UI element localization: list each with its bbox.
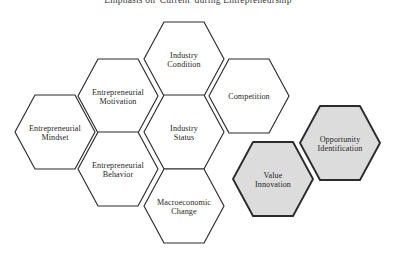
hexagon-label-line1-entrepreneurial-mindset: Entrepreneurial (29, 124, 81, 133)
hexagon-entrepreneurial-behavior[interactable]: EntrepreneurialBehavior (78, 132, 158, 206)
hexagon-label-line2-entrepreneurial-mindset: Mindset (41, 133, 69, 142)
hexagon-opportunity-identification[interactable]: OpportunityIdentification (300, 106, 380, 180)
hexagon-label-line1-value-innovation: Value (264, 171, 283, 180)
hexagon-label-line2-entrepreneurial-motivation: Motivation (100, 97, 137, 106)
hexagon-label-line1-entrepreneurial-motivation: Entrepreneurial (92, 88, 144, 97)
figure-canvas: Emphasis on 'Current' during Entrepreneu… (0, 0, 396, 269)
hexagon-value-innovation[interactable]: ValueInnovation (233, 142, 313, 216)
hexagon-industry-condition[interactable]: IndustryCondition (144, 22, 224, 96)
hexagon-label-line1-competition: Competition (228, 92, 270, 101)
hexagon-label-line1-opportunity-identification: Opportunity (320, 135, 362, 144)
hexagon-label-line2-value-innovation: Innovation (255, 180, 291, 189)
hexagon-label-line2-entrepreneurial-behavior: Behavior (103, 170, 134, 179)
hexagon-label-line1-entrepreneurial-behavior: Entrepreneurial (92, 161, 144, 170)
hexagon-label-line1-industry-status: Industry (170, 124, 199, 133)
hexagon-macroeconomic-change[interactable]: MacroeconomicChange (144, 169, 224, 243)
hexagon-label-line2-opportunity-identification: Identification (318, 144, 363, 153)
hexagon-diagram: EntrepreneurialMindsetEntrepreneurialMot… (0, 0, 396, 269)
hexagon-industry-status[interactable]: IndustryStatus (144, 95, 224, 169)
hexagon-label-line2-industry-condition: Condition (167, 60, 200, 69)
hexagon-competition[interactable]: Competition (209, 59, 289, 133)
hexagon-label-industry-condition: IndustryCondition (167, 51, 200, 69)
hexagon-label-line1-industry-condition: Industry (170, 51, 199, 60)
hexagon-label-competition: Competition (228, 92, 270, 101)
hexagon-label-opportunity-identification: OpportunityIdentification (318, 135, 363, 153)
hexagon-label-line2-macroeconomic-change: Change (171, 207, 197, 216)
hexagon-label-line2-industry-status: Status (174, 133, 194, 142)
hexagon-label-line1-macroeconomic-change: Macroeconomic (157, 198, 211, 207)
